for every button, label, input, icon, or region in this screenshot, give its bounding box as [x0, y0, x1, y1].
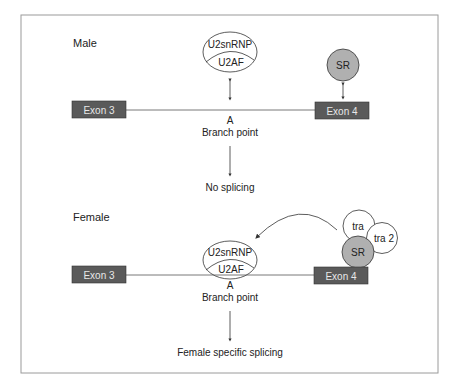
female-label: Female — [73, 211, 110, 223]
outcome-label: No splicing — [206, 182, 255, 193]
exon-3-label: Exon 3 — [83, 270, 115, 281]
u2af-label: U2AF — [218, 57, 244, 68]
u2af-label: U2AF — [218, 264, 244, 275]
exon-4-female: Exon 4 — [314, 267, 368, 284]
outcome-label: Female specific splicing — [177, 347, 283, 358]
tra2-label: tra 2 — [374, 233, 394, 244]
u2-complex-male: U2snRNP U2AF — [203, 32, 257, 72]
exon-4-label: Exon 4 — [325, 271, 357, 282]
exon-3-female: Exon 3 — [72, 266, 126, 283]
u2-complex-female: U2snRNP U2AF — [203, 241, 257, 279]
tra-label: tra — [352, 221, 364, 232]
branch-a: A — [227, 280, 234, 291]
branch-a: A — [227, 115, 234, 126]
branch-point-label: Branch point — [202, 127, 258, 138]
splicing-diagram: Male U2snRNP U2AF SR Exon 3 Exon 4 A Bra… — [0, 0, 454, 391]
branch-point-label: Branch point — [202, 292, 258, 303]
exon-4-label: Exon 4 — [326, 106, 358, 117]
u2snrnp-label: U2snRNP — [208, 247, 253, 258]
male-label: Male — [73, 37, 97, 49]
sr-label: SR — [351, 247, 365, 258]
exon-3-male: Exon 3 — [72, 101, 126, 118]
sr-protein-male: SR — [327, 49, 359, 81]
exon-4-male: Exon 4 — [315, 102, 369, 119]
u2snrnp-label: U2snRNP — [208, 39, 253, 50]
exon-3-label: Exon 3 — [83, 105, 115, 116]
sr-label: SR — [336, 60, 350, 71]
